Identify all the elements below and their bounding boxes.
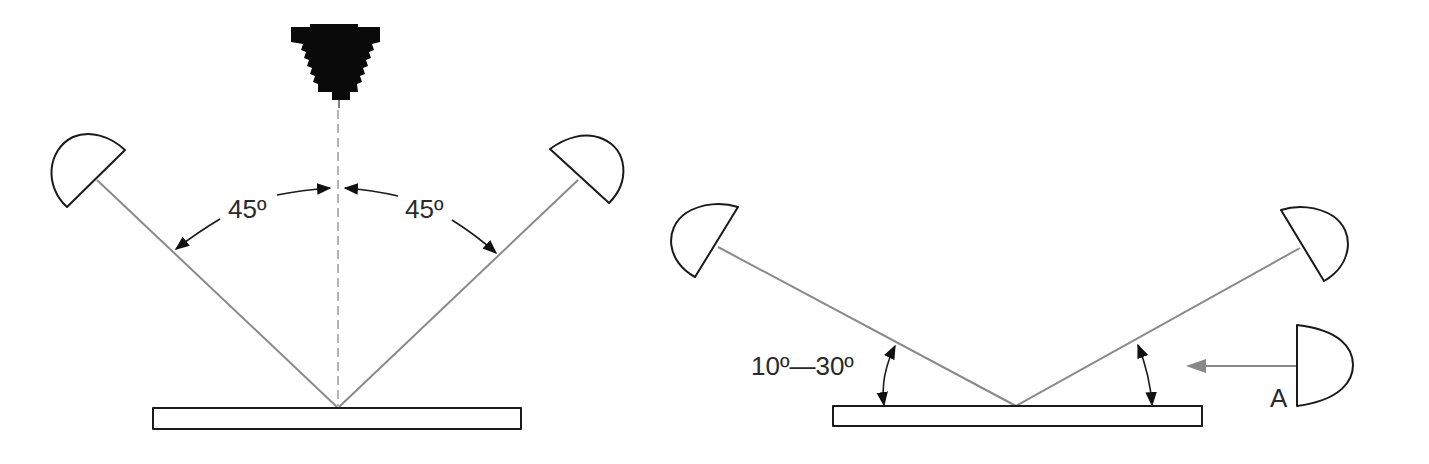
- angle-range-label: 10º—30º: [751, 351, 854, 381]
- light-a-icon: [1297, 325, 1353, 406]
- angle-arc-right-top: [345, 188, 398, 196]
- lighting-diagram: 45º 45º A 10º—30º: [0, 0, 1429, 464]
- right-light-beam: [339, 180, 578, 407]
- left-low-angle-beam: [718, 247, 1016, 406]
- angle-label-right: 45º: [405, 194, 444, 224]
- angle-arc-low-left: [883, 346, 895, 405]
- light-a-label: A: [1270, 383, 1288, 413]
- angle-arc-left-top: [277, 188, 330, 195]
- right-low-angle-beam: [1016, 248, 1300, 406]
- right-light-icon: [550, 136, 623, 203]
- left-light-beam: [97, 180, 337, 407]
- left-low-light-icon: [671, 204, 738, 277]
- angle-arc-low-right: [1138, 345, 1152, 405]
- copy-board-right: [833, 406, 1202, 426]
- copy-board-left: [153, 408, 521, 429]
- right-low-light-icon: [1281, 207, 1348, 281]
- angle-arc-right: [452, 220, 496, 253]
- angle-label-left: 45º: [228, 194, 267, 224]
- left-panel-45-degree-setup: 45º 45º: [51, 24, 623, 429]
- right-panel-low-angle-setup: A 10º—30º: [671, 204, 1353, 426]
- angle-arc-left: [176, 219, 220, 249]
- camera-lens-icon: [291, 24, 380, 108]
